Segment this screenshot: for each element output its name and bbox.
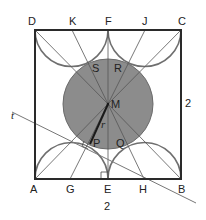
label-side-bottom: 2 [104, 200, 110, 212]
label-J: J [142, 15, 148, 27]
center-point-M [107, 103, 110, 106]
label-A: A [30, 183, 38, 195]
label-S: S [92, 62, 99, 74]
label-Q: Q [116, 137, 125, 149]
label-F: F [105, 15, 112, 27]
label-r: r [101, 118, 106, 130]
label-G: G [66, 183, 75, 195]
label-K: K [69, 15, 77, 27]
geometry-figure: D K F J C S R M r P Q t 2 A G E H B 2 [0, 0, 206, 220]
label-B: B [178, 183, 185, 195]
label-C: C [178, 15, 186, 27]
label-R: R [114, 62, 122, 74]
label-M: M [111, 98, 120, 110]
label-t: t [11, 109, 15, 121]
label-P: P [93, 137, 100, 149]
label-H: H [139, 183, 147, 195]
label-D: D [28, 15, 36, 27]
label-E: E [104, 183, 111, 195]
label-side-right: 2 [185, 97, 191, 109]
